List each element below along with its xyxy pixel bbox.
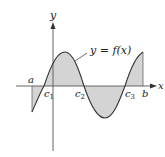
y-axis-arrow-icon xyxy=(51,22,56,29)
y-axis-label: y xyxy=(49,9,57,22)
x-axis-arrow-icon xyxy=(150,84,157,89)
function-label: y = f(x) xyxy=(89,44,131,57)
shaded-region xyxy=(125,52,143,86)
a-label: a xyxy=(28,74,34,85)
x-axis-label: x xyxy=(158,80,164,91)
area-diagram: y = f(x) y x a b c1 c2 c3 xyxy=(0,0,165,157)
c3-label: c3 xyxy=(125,88,135,101)
label-leader xyxy=(75,53,87,61)
b-label: b xyxy=(142,88,148,99)
c2-label: c2 xyxy=(75,88,85,101)
